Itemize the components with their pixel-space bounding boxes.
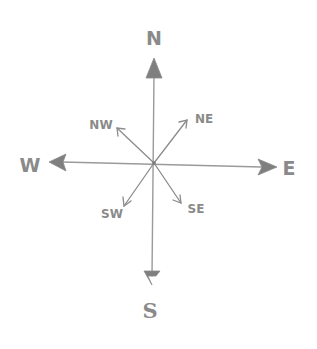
west-arrowhead-icon: [49, 154, 66, 171]
north-south-line: [152, 74, 154, 276]
northeast-line: [154, 120, 187, 163]
south-arrowhead-icon: [144, 271, 160, 285]
north-arrowhead-icon: [146, 58, 162, 78]
label-south: S: [142, 298, 157, 323]
cardinal-arrowheads: [49, 58, 277, 285]
label-east: E: [283, 157, 296, 179]
label-southwest: SW: [101, 207, 123, 221]
compass-rose: N S W E NE NW SW SE: [0, 0, 317, 349]
southeast-line: [154, 163, 181, 203]
label-southeast: SE: [188, 202, 205, 216]
label-northwest: NW: [89, 118, 112, 132]
southwest-line: [124, 163, 154, 206]
label-north: N: [146, 27, 162, 49]
northwest-line: [117, 128, 154, 163]
label-northeast: NE: [195, 112, 213, 126]
center-point: [152, 161, 156, 165]
west-east-line: [62, 162, 262, 167]
label-west: W: [20, 154, 41, 176]
